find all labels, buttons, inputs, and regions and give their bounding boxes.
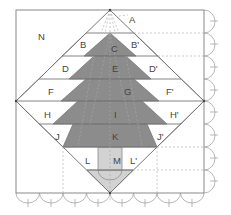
- left-apex-dot: [15, 100, 17, 102]
- label-g: G: [124, 86, 131, 97]
- label-f: F: [48, 86, 54, 97]
- label-i: I: [114, 109, 117, 120]
- label-b-prime: B': [131, 39, 139, 50]
- label-e: E: [112, 63, 118, 74]
- label-f-prime: F': [166, 86, 174, 97]
- label-h: H: [44, 109, 51, 120]
- label-c: C: [111, 43, 118, 54]
- label-d: D: [62, 63, 69, 74]
- top-apex-dot: [109, 9, 111, 11]
- label-j: J: [55, 131, 60, 142]
- right-scallops: [204, 10, 218, 193]
- label-m: M: [113, 155, 121, 166]
- label-l-prime: L': [130, 155, 137, 166]
- label-k: K: [112, 131, 119, 142]
- label-l: L: [85, 155, 90, 166]
- label-j-prime: J': [157, 131, 164, 142]
- right-apex-dot: [203, 100, 205, 102]
- label-b: B: [80, 39, 86, 50]
- tree-quilt-diagram: A N B C B' D E D' F G F' H I H' J K J' L…: [0, 0, 231, 215]
- label-d-prime: D': [149, 63, 158, 74]
- label-n: N: [38, 31, 45, 42]
- label-a: A: [129, 14, 136, 25]
- label-h-prime: H': [170, 109, 179, 120]
- bottom-apex-dot: [109, 192, 111, 194]
